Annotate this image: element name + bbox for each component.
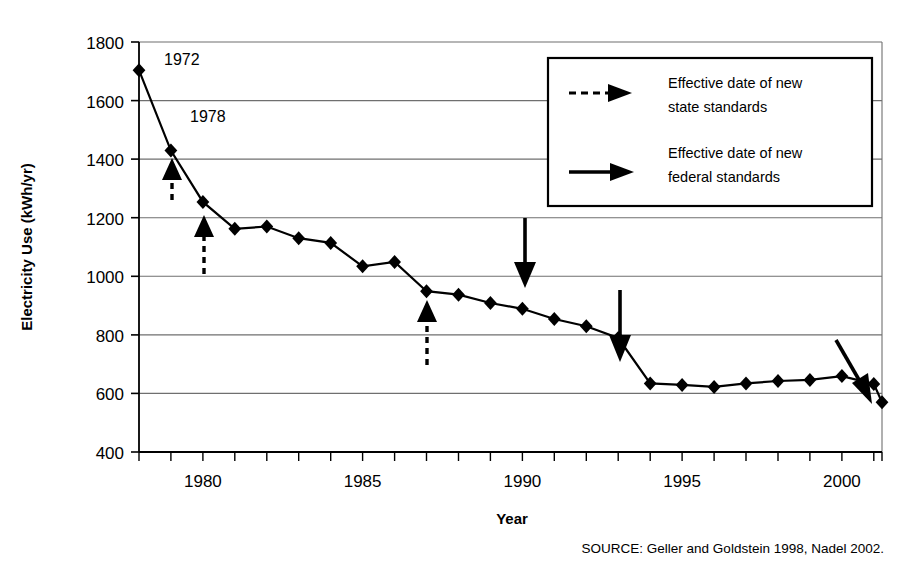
- y-tick-label: 400: [96, 444, 124, 463]
- x-tick-label: 1985: [344, 472, 382, 491]
- x-tick-label: 1995: [663, 472, 701, 491]
- x-tick-label: 2000: [823, 472, 861, 491]
- x-axis-title: Year: [496, 510, 528, 527]
- legend-label-line1: Effective date of new: [668, 145, 803, 161]
- annotation-1972: 1972: [164, 51, 200, 68]
- y-tick-label: 600: [96, 385, 124, 404]
- legend-label-line1: Effective date of new: [668, 75, 803, 91]
- y-tick-label: 800: [96, 327, 124, 346]
- y-tick-label: 1200: [86, 210, 124, 229]
- refrigerator-electricity-use-chart: 1800 1600 1400 1200 1000 800 600 400 198…: [0, 0, 914, 583]
- x-tick-label: 1980: [184, 472, 222, 491]
- y-tick-label: 1600: [86, 93, 124, 112]
- y-tick-label: 1000: [86, 268, 124, 287]
- legend-label-line2: federal standards: [668, 169, 780, 185]
- chart-container: 1800 1600 1400 1200 1000 800 600 400 198…: [0, 0, 914, 583]
- legend: Effective date of new state standards Ef…: [548, 58, 872, 206]
- x-tick-label: 1990: [503, 472, 541, 491]
- source-note: SOURCE: Geller and Goldstein 1998, Nadel…: [582, 541, 884, 556]
- annotation-1978: 1978: [190, 108, 226, 125]
- y-axis-title: Electricity Use (kWh/yr): [18, 163, 35, 331]
- y-tick-label: 1400: [86, 151, 124, 170]
- y-tick-label: 1800: [86, 34, 124, 53]
- legend-label-line2: state standards: [668, 99, 767, 115]
